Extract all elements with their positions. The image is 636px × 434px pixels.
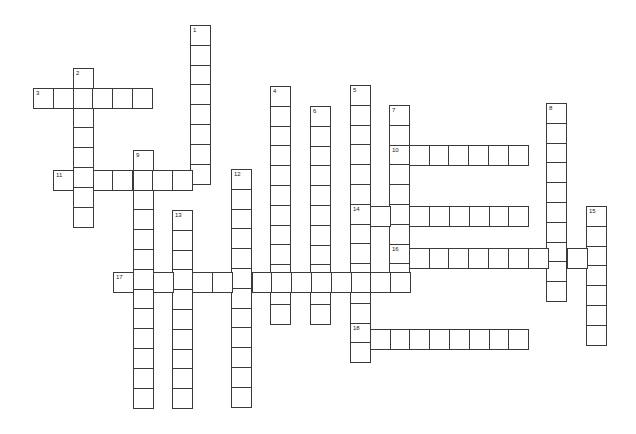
crossword-cell[interactable] bbox=[350, 105, 371, 126]
crossword-cell[interactable]: 15 bbox=[586, 206, 607, 227]
crossword-cell[interactable] bbox=[270, 165, 291, 186]
crossword-cell[interactable] bbox=[270, 106, 291, 127]
crossword-cell[interactable] bbox=[152, 170, 173, 191]
crossword-cell[interactable]: 13 bbox=[172, 210, 193, 231]
crossword-cell[interactable] bbox=[508, 248, 529, 269]
crossword-cell[interactable] bbox=[310, 146, 331, 167]
crossword-cell[interactable]: 1 bbox=[190, 25, 211, 46]
crossword-cell[interactable] bbox=[73, 108, 94, 129]
crossword-cell[interactable] bbox=[190, 84, 211, 105]
crossword-cell[interactable] bbox=[112, 88, 133, 109]
crossword-cell[interactable]: 9 bbox=[133, 150, 154, 171]
crossword-cell[interactable] bbox=[350, 224, 371, 245]
crossword-cell[interactable] bbox=[231, 228, 252, 249]
crossword-cell[interactable] bbox=[449, 329, 470, 350]
crossword-cell[interactable] bbox=[370, 272, 391, 293]
crossword-cell[interactable] bbox=[73, 127, 94, 148]
crossword-cell[interactable] bbox=[133, 348, 154, 369]
crossword-cell[interactable] bbox=[192, 272, 213, 293]
crossword-cell[interactable] bbox=[112, 170, 133, 191]
crossword-cell[interactable] bbox=[172, 269, 193, 290]
crossword-cell[interactable] bbox=[133, 269, 154, 290]
crossword-cell[interactable] bbox=[172, 170, 193, 191]
crossword-cell[interactable] bbox=[133, 289, 154, 310]
crossword-cell[interactable] bbox=[310, 185, 331, 206]
crossword-cell[interactable] bbox=[390, 329, 411, 350]
crossword-cell[interactable] bbox=[546, 242, 567, 263]
crossword-cell[interactable] bbox=[231, 268, 252, 289]
crossword-cell[interactable] bbox=[310, 165, 331, 186]
crossword-cell[interactable] bbox=[73, 147, 94, 168]
crossword-cell[interactable] bbox=[409, 248, 430, 269]
crossword-cell[interactable] bbox=[132, 88, 153, 109]
crossword-cell[interactable] bbox=[270, 126, 291, 147]
crossword-cell[interactable] bbox=[389, 204, 410, 225]
crossword-cell[interactable] bbox=[370, 206, 391, 227]
crossword-cell[interactable] bbox=[546, 123, 567, 144]
crossword-cell[interactable] bbox=[172, 289, 193, 310]
crossword-cell[interactable] bbox=[508, 206, 529, 227]
crossword-cell[interactable] bbox=[409, 145, 430, 166]
crossword-cell[interactable]: 8 bbox=[546, 103, 567, 124]
crossword-cell[interactable] bbox=[489, 329, 510, 350]
crossword-cell[interactable]: 12 bbox=[231, 169, 252, 190]
crossword-cell[interactable] bbox=[190, 124, 211, 145]
crossword-cell[interactable] bbox=[488, 145, 509, 166]
crossword-cell[interactable] bbox=[311, 272, 332, 293]
crossword-cell[interactable] bbox=[350, 144, 371, 165]
crossword-cell[interactable] bbox=[231, 209, 252, 230]
crossword-cell[interactable] bbox=[448, 145, 469, 166]
crossword-cell[interactable]: 3 bbox=[33, 88, 54, 109]
crossword-cell[interactable] bbox=[231, 189, 252, 210]
crossword-cell[interactable] bbox=[190, 65, 211, 86]
crossword-cell[interactable] bbox=[172, 368, 193, 389]
crossword-cell[interactable] bbox=[190, 104, 211, 125]
crossword-cell[interactable] bbox=[586, 226, 607, 247]
crossword-cell[interactable] bbox=[133, 308, 154, 329]
crossword-cell[interactable] bbox=[270, 205, 291, 226]
crossword-cell[interactable] bbox=[133, 170, 154, 191]
crossword-cell[interactable] bbox=[190, 164, 211, 185]
crossword-cell[interactable] bbox=[310, 304, 331, 325]
crossword-cell[interactable] bbox=[546, 143, 567, 164]
crossword-cell[interactable] bbox=[389, 125, 410, 146]
crossword-cell[interactable] bbox=[390, 272, 411, 293]
crossword-cell[interactable] bbox=[409, 329, 430, 350]
crossword-cell[interactable] bbox=[133, 229, 154, 250]
crossword-cell[interactable] bbox=[546, 222, 567, 243]
crossword-cell[interactable] bbox=[586, 325, 607, 346]
crossword-cell[interactable] bbox=[310, 245, 331, 266]
crossword-cell[interactable] bbox=[133, 328, 154, 349]
crossword-cell[interactable]: 2 bbox=[73, 68, 94, 89]
crossword-cell[interactable] bbox=[508, 145, 529, 166]
crossword-cell[interactable] bbox=[546, 202, 567, 223]
crossword-cell[interactable] bbox=[546, 162, 567, 183]
crossword-cell[interactable] bbox=[449, 206, 470, 227]
crossword-cell[interactable] bbox=[468, 145, 489, 166]
crossword-cell[interactable]: 17 bbox=[113, 272, 134, 293]
crossword-cell[interactable] bbox=[231, 347, 252, 368]
crossword-cell[interactable] bbox=[172, 309, 193, 330]
crossword-cell[interactable] bbox=[93, 170, 114, 191]
crossword-cell[interactable] bbox=[546, 281, 567, 302]
crossword-cell[interactable] bbox=[448, 248, 469, 269]
crossword-cell[interactable] bbox=[231, 387, 252, 408]
crossword-cell[interactable] bbox=[172, 388, 193, 409]
crossword-cell[interactable]: 7 bbox=[389, 105, 410, 126]
crossword-cell[interactable]: 16 bbox=[389, 244, 410, 265]
crossword-cell[interactable] bbox=[73, 167, 94, 188]
crossword-cell[interactable] bbox=[212, 272, 233, 293]
crossword-cell[interactable] bbox=[469, 206, 490, 227]
crossword-cell[interactable] bbox=[586, 285, 607, 306]
crossword-cell[interactable]: 5 bbox=[350, 85, 371, 106]
crossword-cell[interactable] bbox=[92, 88, 113, 109]
crossword-cell[interactable] bbox=[133, 368, 154, 389]
crossword-cell[interactable] bbox=[270, 225, 291, 246]
crossword-cell[interactable] bbox=[546, 261, 567, 282]
crossword-cell[interactable] bbox=[231, 248, 252, 269]
crossword-cell[interactable] bbox=[429, 145, 450, 166]
crossword-cell[interactable] bbox=[53, 88, 74, 109]
crossword-cell[interactable] bbox=[270, 145, 291, 166]
crossword-cell[interactable] bbox=[271, 272, 292, 293]
crossword-cell[interactable] bbox=[389, 184, 410, 205]
